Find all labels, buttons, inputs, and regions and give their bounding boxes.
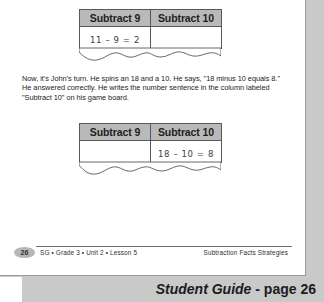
game-board-table-two: Subtract 9 Subtract 10 18 – 10 = 8 (79, 123, 222, 163)
number-sentence-text: 18 – 10 = 8 (158, 149, 214, 159)
cell-subtract-9 (80, 141, 151, 163)
game-board-table-one: Subtract 9 Subtract 10 11 – 9 = 2 (79, 9, 222, 49)
footer-section-title: Subtraction Facts Strategies (204, 249, 288, 256)
table-header-row: Subtract 9 Subtract 10 (80, 124, 222, 141)
page-content-area: Subtract 9 Subtract 10 11 – 9 = 2 Now, i… (0, 0, 305, 275)
column-header-subtract-10: Subtract 10 (151, 10, 222, 27)
page-corner-notch (0, 277, 22, 302)
number-sentence-text: 11 – 9 = 2 (90, 35, 140, 45)
table-row: 18 – 10 = 8 (80, 141, 222, 163)
page-footer: 26 SG • Grade 3 • Unit 2 • Lesson 5 Subt… (14, 246, 292, 260)
banner-separator: - (251, 281, 263, 297)
source-banner: Student Guide - page 26 (156, 281, 316, 297)
footer-breadcrumb: SG • Grade 3 • Unit 2 • Lesson 5 (40, 249, 137, 256)
cell-subtract-9: 11 – 9 = 2 (80, 27, 151, 49)
column-header-subtract-9: Subtract 9 (80, 10, 151, 27)
banner-title: Student Guide (156, 281, 252, 297)
footer-page-number-badge: 26 (14, 247, 35, 258)
banner-page-label: page 26 (264, 281, 316, 297)
instructional-paragraph: Now, it's John's turn. He spins an 18 an… (22, 74, 290, 102)
table-header-row: Subtract 9 Subtract 10 (80, 10, 222, 27)
footer-divider-rule (36, 246, 292, 247)
torn-paper-edge (79, 161, 221, 177)
document-page-sheet: Subtract 9 Subtract 10 11 – 9 = 2 Now, i… (0, 0, 306, 276)
torn-paper-edge (79, 47, 221, 63)
cell-subtract-10 (151, 27, 222, 49)
column-header-subtract-10: Subtract 10 (151, 124, 222, 141)
table-row: 11 – 9 = 2 (80, 27, 222, 49)
column-header-subtract-9: Subtract 9 (80, 124, 151, 141)
cell-subtract-10: 18 – 10 = 8 (151, 141, 222, 163)
